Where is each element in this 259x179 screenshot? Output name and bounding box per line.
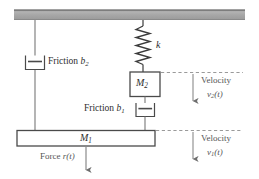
mass-M2-subscript: 2 [144,82,148,90]
damper-b2-label-subscript: 2 [85,60,88,67]
damper-b1-label-word: Friction [84,103,114,113]
damper-b2-label-word: Friction [48,56,78,66]
mass-M1-subscript: 1 [88,137,92,145]
damper-b1-label: Friction b1 [84,104,125,114]
spring-constant-label: k [156,40,160,50]
mass-M1-label: M1 [80,133,92,145]
velocity-v1-word: Velocity [201,134,231,143]
fixed-support-ceiling [14,10,245,21]
spring-k-symbol [136,20,150,72]
mass-M2-label: M2 [136,78,148,90]
damper-b1-symbol [136,103,155,117]
damper-b2-label: Friction b2 [48,57,89,67]
mechanical-system-diagram: Friction b2 Friction b1 k M2 M1 Velocity… [0,0,259,179]
velocity-v1-symbol-label: v1(t) [207,148,223,158]
velocity-v2-symbol-label: v2(t) [207,90,223,100]
velocity-v2-argument: (t) [214,89,223,99]
velocity-v2-word: Velocity [201,76,231,85]
damper-b1-label-subscript: 1 [121,107,124,114]
velocity-v1-argument: (t) [214,147,223,157]
force-label: Force r(t) [40,152,75,161]
damper-b2-symbol [26,56,45,70]
force-argument: (t) [66,151,75,161]
force-word: Force [40,151,61,161]
